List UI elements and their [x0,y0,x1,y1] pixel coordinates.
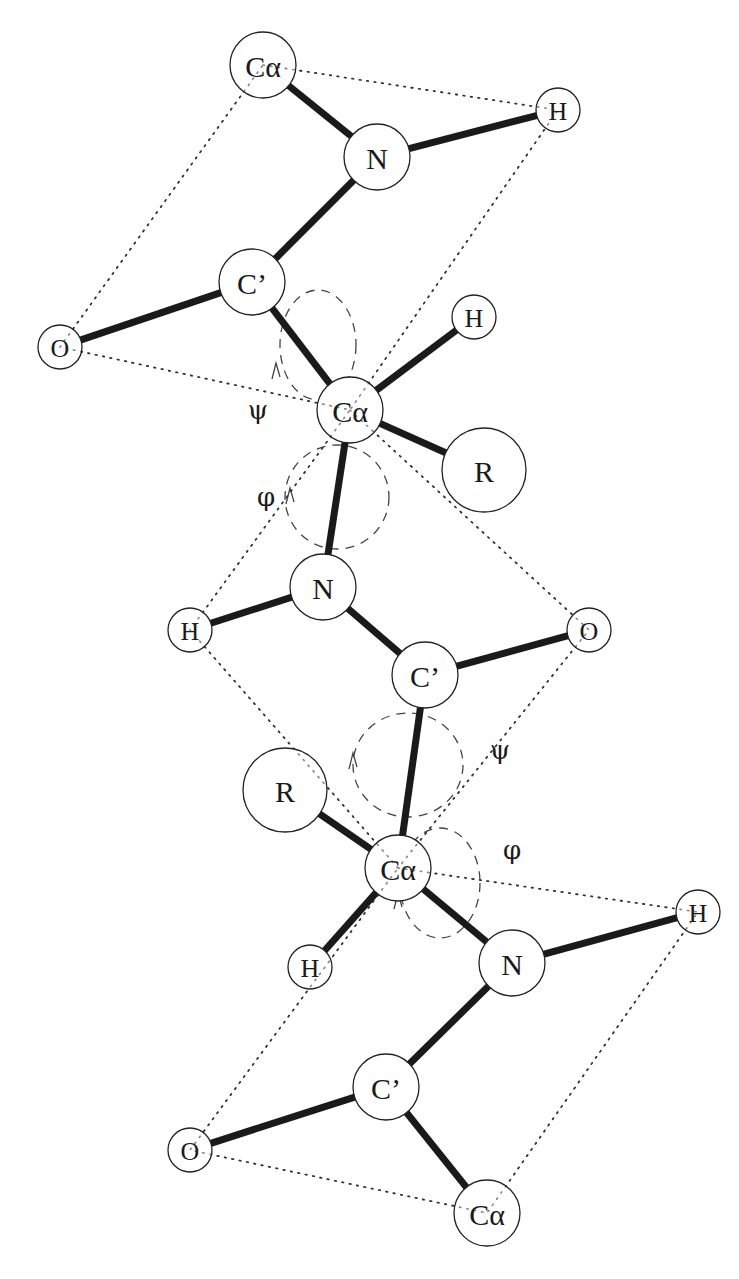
bond-n3-h5 [530,915,687,958]
bond-n1-h1 [395,113,547,152]
phi-label-1: φ [257,482,275,512]
atom-label: H [465,304,484,333]
atom-c1: C’ [219,249,285,315]
atom-r2: R [243,748,327,832]
atom-label: N [501,948,523,981]
atom-label: Cα [245,50,281,83]
rotation-arrow-icon [272,363,280,379]
atom-label: N [312,572,334,605]
atom-c2: C’ [392,642,458,708]
atom-c3: C’ [353,1054,419,1120]
phi-label-2: φ [503,835,521,865]
bond-ca2-h2 [365,324,465,399]
atom-label: H [549,97,568,126]
bond-ca3-n3 [412,880,498,952]
atom-h2: H [452,295,496,339]
bond-n1-c1 [265,170,364,269]
atom-label: H [301,954,320,983]
atom-n1: N [344,124,410,190]
atom-label: R [474,455,494,488]
atom-label: Cα [469,1198,505,1231]
atom-ca4: Cα [454,1180,520,1246]
atom-label: C’ [410,660,440,693]
atom-n3: N [479,930,545,996]
atom-label: R [275,775,295,808]
bond-ca2-n2 [326,428,348,569]
bond-c1-ca2 [263,296,339,395]
psi-label-1: ψ [248,395,268,425]
bond-n3-c3 [399,976,499,1075]
bond-c3-ca4 [397,1101,475,1199]
atom-h5: H [676,890,720,934]
atom-label: O [580,617,599,646]
atom-o2: O [567,608,611,652]
atom-label: C’ [237,267,267,300]
atom-label: H [689,899,708,928]
bond-c1-o1 [71,288,234,343]
psi-label-2: ψ [490,735,510,765]
bond-ca1-n1 [277,76,363,145]
atom-label: C’ [371,1072,401,1105]
atom-n2: N [290,554,356,620]
bond-c2-o2 [443,633,578,670]
peptide-backbone-diagram: CαNHC’OHCαRNHOC’RCαHNHC’OCα ψφψφ [0,0,739,1279]
atom-label: N [366,142,388,175]
atom-r1: R [442,428,526,512]
atom-h1: H [536,88,580,132]
bond-c2-ca3 [401,693,423,850]
bond-n2-h3 [202,593,306,627]
